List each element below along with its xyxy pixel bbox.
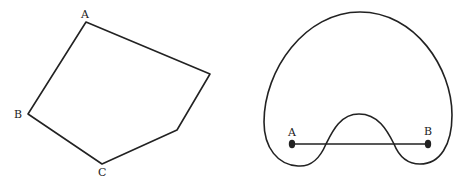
convex-polygon-figure: A B C <box>14 8 210 179</box>
polygon-outline <box>28 22 210 164</box>
vertex-label-c: C <box>98 166 106 179</box>
point-a-dot <box>289 140 295 148</box>
point-label-b: B <box>424 125 432 138</box>
vertex-label-a: A <box>80 8 90 21</box>
point-b-dot <box>425 140 431 148</box>
nonconvex-shape-figure: A B <box>264 12 452 166</box>
point-label-a: A <box>287 126 297 139</box>
vertex-label-b: B <box>14 108 22 121</box>
diagram-canvas: A B C A B <box>0 0 465 182</box>
